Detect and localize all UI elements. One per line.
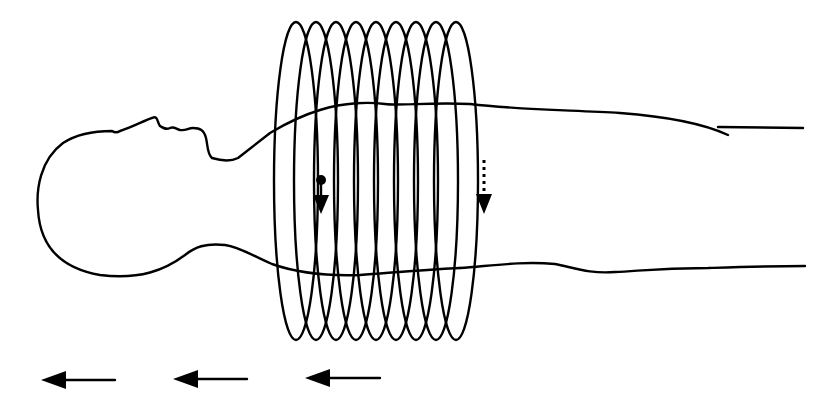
coil-loop [374,22,418,340]
patient-lower-contour [460,263,805,272]
patient-upper-contour [38,103,803,276]
left-arrow-icon [173,370,247,388]
coil-loop [294,22,338,340]
coil-loop [274,22,318,340]
left-arrow-icon [41,371,115,389]
coil-loop [354,22,398,340]
left-arrow-icon [305,369,380,387]
patient-outline [38,103,805,276]
helical-scan-diagram [0,0,838,420]
coil-loops [274,22,478,340]
coil-loop [434,22,478,340]
motion-arrows [41,369,380,389]
rotation-indicators [313,160,492,214]
coil-loop [414,22,458,340]
coil-loop [334,22,378,340]
coil-loop [394,22,438,340]
